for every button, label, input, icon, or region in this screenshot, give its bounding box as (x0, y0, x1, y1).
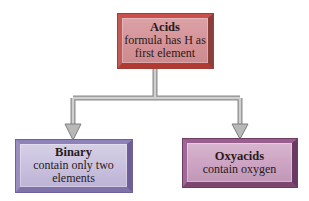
node-binary: Binary contain only two elements (16, 140, 132, 192)
diagram-canvas: Acids formula has H as first element Bin… (0, 0, 309, 201)
arrow-head-right-icon (232, 124, 248, 139)
node-acids-line-2: first element (135, 47, 195, 60)
node-oxyacids-line-1: contain oxygen (203, 163, 277, 176)
node-acids: Acids formula has H as first element (118, 14, 213, 68)
node-oxyacids: Oxyacids contain oxygen (183, 139, 297, 187)
node-oxyacids-title: Oxyacids (215, 150, 264, 163)
tree-connector (73, 68, 240, 128)
arrow-head-left-icon (65, 124, 81, 140)
node-binary-line-2: elements (52, 172, 95, 185)
